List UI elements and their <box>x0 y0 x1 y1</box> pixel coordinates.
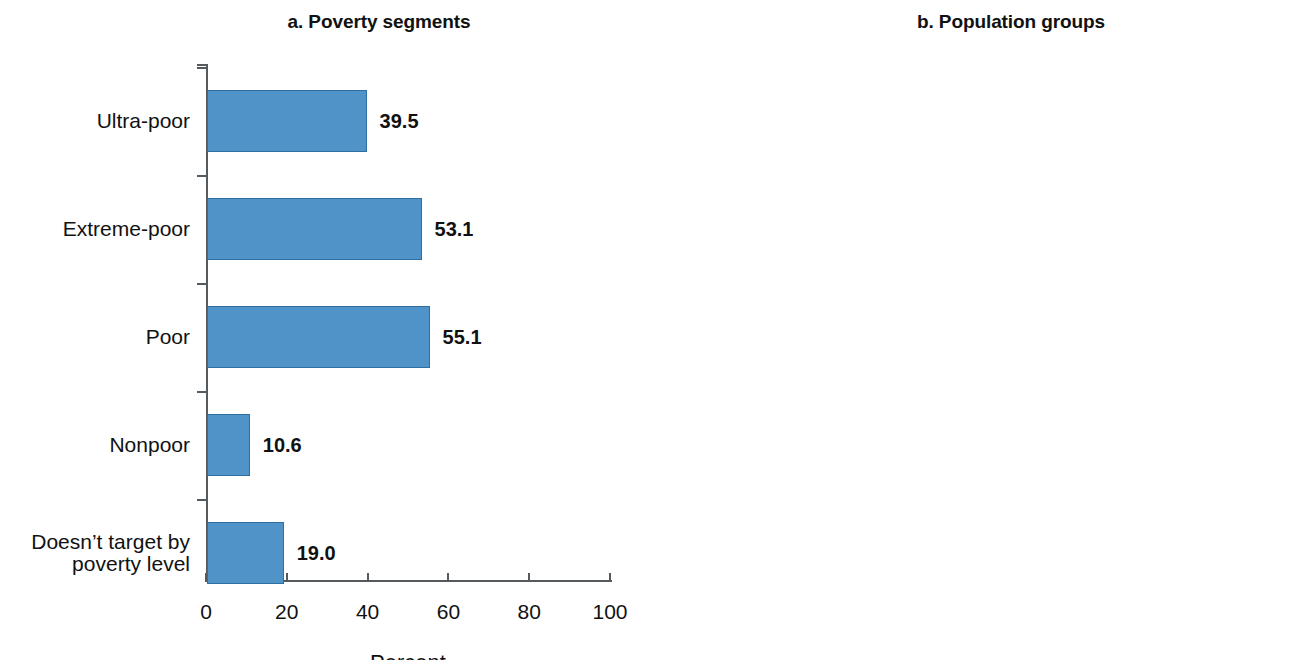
panel-poverty-segments: a. Poverty segments Percent 020406080100… <box>0 0 652 660</box>
bar-value-label: 19.0 <box>297 542 336 565</box>
x-axis-tick-label: 80 <box>518 600 541 624</box>
x-axis-tick <box>447 573 449 582</box>
x-axis-title-a: Percent <box>370 650 446 660</box>
x-axis-tick <box>528 573 530 582</box>
bar-value-label: 53.1 <box>435 218 474 241</box>
bar <box>207 414 250 476</box>
y-axis-tick <box>197 499 206 501</box>
category-label: Ultra-poor <box>0 110 190 132</box>
y-axis-tick <box>197 175 206 177</box>
bar <box>207 90 367 152</box>
two-panel-bar-chart-figure: a. Poverty segments Percent 020406080100… <box>0 0 1305 660</box>
bar <box>207 306 430 368</box>
category-label: Poor <box>0 326 190 348</box>
x-axis-tick <box>609 573 611 582</box>
plot-area-a: Percent 02040608010039.5Ultra-poor53.1Ex… <box>206 64 610 580</box>
panel-b-title: b. Population groups <box>653 11 1305 33</box>
x-axis-tick <box>286 573 288 582</box>
y-axis-tick <box>197 64 206 66</box>
x-axis-tick-label: 60 <box>437 600 460 624</box>
category-label: Nonpoor <box>0 434 190 456</box>
x-axis-tick-label: 40 <box>356 600 379 624</box>
bar <box>207 522 284 584</box>
bar <box>207 198 422 260</box>
x-axis-tick-label: 100 <box>592 600 627 624</box>
x-axis-tick-label: 0 <box>200 600 212 624</box>
y-axis-tick <box>197 67 206 69</box>
category-label: Doesn’t target by poverty level <box>0 531 190 575</box>
y-axis-tick <box>197 283 206 285</box>
panel-population-groups: b. Population groups Percent 02040608010… <box>653 0 1305 660</box>
category-label: Extreme-poor <box>0 218 190 240</box>
bar-value-label: 10.6 <box>263 434 302 457</box>
bar-value-label: 39.5 <box>380 110 419 133</box>
bar-value-label: 55.1 <box>443 326 482 349</box>
panel-a-title: a. Poverty segments <box>0 11 652 33</box>
x-axis-tick <box>367 573 369 582</box>
x-axis-tick-label: 20 <box>275 600 298 624</box>
y-axis-tick <box>197 391 206 393</box>
